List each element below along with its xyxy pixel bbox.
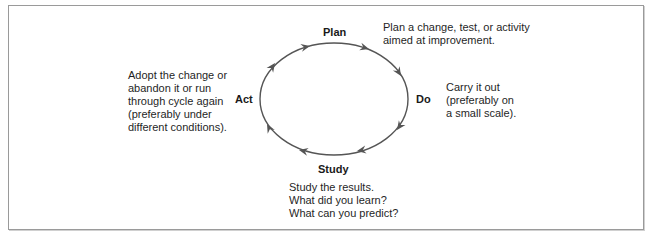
arrowheads (263, 42, 405, 156)
arrow-icon (267, 61, 279, 73)
stage-label-plan: Plan (323, 26, 346, 38)
stage-label-act: Act (235, 93, 253, 105)
do-description: Carry it out (preferably on a small scal… (446, 81, 516, 120)
arrow-icon (359, 43, 370, 53)
study-description: Study the results. What did you learn? W… (289, 181, 398, 220)
arrow-icon (300, 42, 310, 52)
stage-label-study: Study (318, 163, 349, 175)
act-description: Adopt the change or abandon it or run th… (128, 69, 227, 134)
plan-description: Plan a change, test, or activity aimed a… (383, 21, 530, 47)
arrow-icon (263, 122, 274, 134)
stage-label-do: Do (416, 93, 431, 105)
cycle-ellipse (260, 43, 408, 155)
